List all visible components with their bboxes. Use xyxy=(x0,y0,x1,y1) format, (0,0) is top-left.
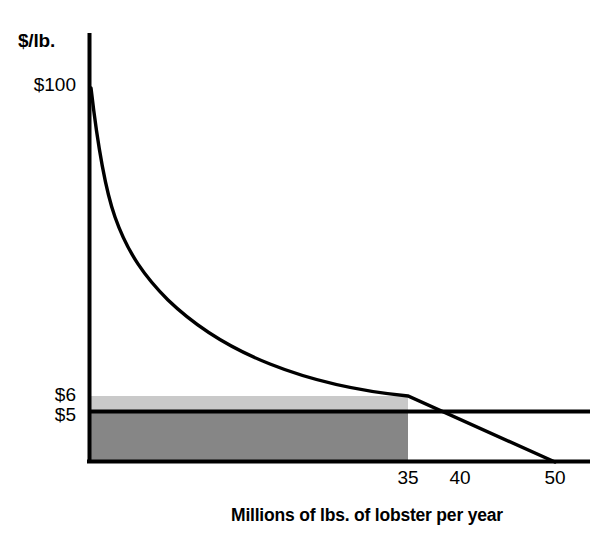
y-axis-tick-label-100: $100 xyxy=(8,74,76,96)
x-axis-tick-label-50: 50 xyxy=(530,467,580,489)
y-axis-title: $/lb. xyxy=(18,30,55,52)
x-axis-title: Millions of lbs. of lobster per year xyxy=(231,505,503,526)
x-axis-tick-label-40: 40 xyxy=(435,467,485,489)
chart-plot-area xyxy=(0,0,616,553)
y-axis-tick-label-6: $6 xyxy=(8,384,76,406)
y-axis-tick-label-5: $5 xyxy=(8,404,76,426)
shaded-region-lower-dark xyxy=(89,412,408,462)
lobster-demand-chart: $/lb. Millions of lbs. of lobster per ye… xyxy=(0,0,616,553)
x-axis-tick-label-35: 35 xyxy=(383,467,433,489)
